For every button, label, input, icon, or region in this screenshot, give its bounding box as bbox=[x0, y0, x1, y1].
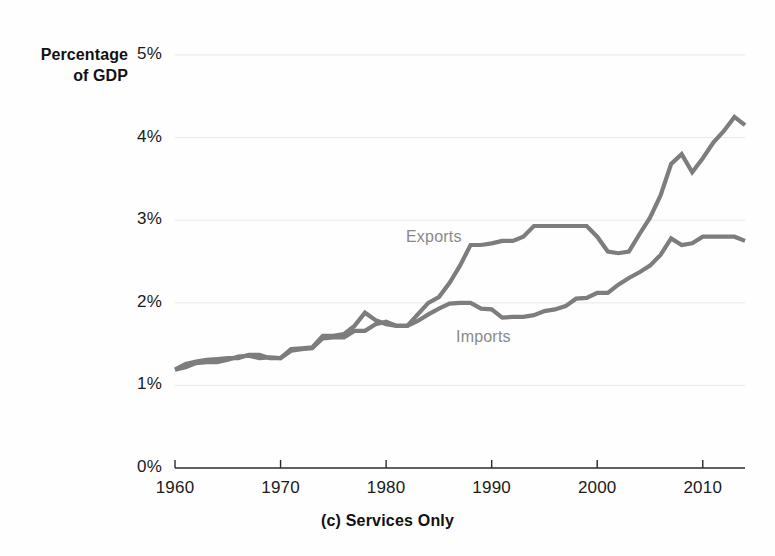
x-tick-label: 1990 bbox=[457, 478, 527, 498]
y-tick-label: 4% bbox=[120, 127, 162, 147]
y-tick-label: 1% bbox=[120, 374, 162, 394]
y-tick-label: 2% bbox=[120, 292, 162, 312]
imports-series-label: Imports bbox=[456, 328, 511, 346]
exports-series-label: Exports bbox=[406, 228, 462, 246]
x-tick-label: 2000 bbox=[562, 478, 632, 498]
x-tick-label: 1960 bbox=[140, 478, 210, 498]
y-tick-label: 5% bbox=[120, 44, 162, 64]
x-tick-label: 1970 bbox=[246, 478, 316, 498]
figure-caption: (c) Services Only bbox=[0, 512, 775, 530]
chart-figure: Percentage of GDP 5%4%3%2%1%0% 196019701… bbox=[0, 0, 775, 556]
y-tick-label: 3% bbox=[120, 209, 162, 229]
x-tick-label: 2010 bbox=[668, 478, 738, 498]
axis-tick-marks bbox=[175, 460, 703, 468]
y-tick-label: 0% bbox=[120, 457, 162, 477]
x-tick-label: 1980 bbox=[351, 478, 421, 498]
chart-plot-area bbox=[0, 0, 775, 556]
